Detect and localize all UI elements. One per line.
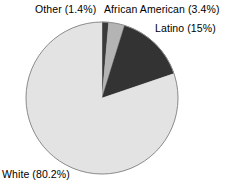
pie-chart-figure: Other (1.4%) African American (3.4%) Lat…	[0, 0, 226, 192]
slice-label-white: White (80.2%)	[2, 168, 70, 180]
pie-slice-group	[26, 22, 178, 174]
slice-label-latino: Latino (15%)	[155, 22, 216, 34]
slice-label-african-american: African American (3.4%)	[104, 3, 220, 15]
slice-label-other: Other (1.4%)	[35, 3, 96, 15]
